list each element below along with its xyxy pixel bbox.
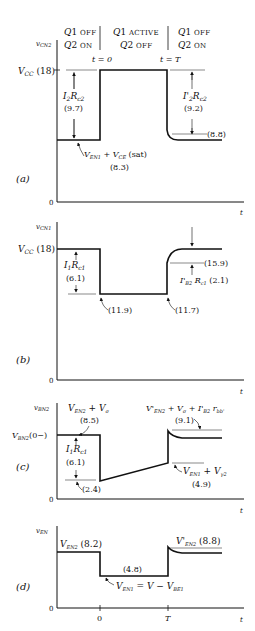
ramp-end-c: VEN1 + Vγ2 — [183, 466, 227, 478]
t0-label: t = 0 — [92, 55, 112, 64]
xlabel-a: t — [240, 209, 243, 217]
col2-line1: Q1 ACTIVE — [113, 27, 159, 37]
ylabel-ven: vEN — [36, 527, 49, 535]
vcc-a: VCC (18) — [18, 66, 55, 77]
overshoot-b: (15.9) — [204, 259, 228, 268]
tag-a: (a) — [16, 173, 30, 184]
ramp-end-val-c: (4.9) — [192, 480, 211, 489]
low-label-a: VEN1 + VCE (sat) — [84, 150, 147, 160]
ylabel-vbn2: vBN2 — [34, 404, 49, 412]
top-right-val-c: (9.1) — [175, 416, 194, 425]
xT-d: T — [165, 614, 171, 623]
zero-b: 0 — [49, 377, 53, 385]
xlabel-c: t — [240, 507, 243, 515]
col3-line2: Q2 ON — [178, 40, 206, 50]
tag-d: (d) — [16, 581, 30, 592]
right-drop-val-a: (9.2) — [184, 104, 203, 113]
panel-c: vBN2 0 t VBN2(0−) VEN2 + Vσ (8.5) I1Rc1 … — [12, 403, 244, 515]
tT-label: t = T — [160, 55, 181, 64]
drop-b: I1Rc1 — [63, 260, 85, 271]
panel-b: vCN1 0 t VCC (18) I1Rc1 (6.1) (11.9) (11… — [16, 222, 244, 396]
low2-b: (11.7) — [175, 306, 199, 315]
right-d: V'EN2 (8.8) — [176, 536, 220, 547]
waveform-diagram: Q1 OFF Q2 ON Q1 ACTIVE Q2 OFF Q1 OFF Q2 … — [0, 0, 255, 631]
tag-c: (c) — [16, 461, 30, 472]
tag-b: (b) — [16, 354, 30, 365]
drop-val-b: (6.1) — [66, 274, 85, 283]
top-left-val-c: (8.5) — [80, 416, 99, 425]
zero-d: 0 — [49, 605, 53, 613]
col1-line2: Q2 ON — [64, 40, 92, 50]
header: Q1 OFF Q2 ON Q1 ACTIVE Q2 OFF Q1 OFF Q2 … — [64, 26, 210, 64]
xlabel-d: t — [240, 616, 243, 624]
mid-val-d: (4.8) — [123, 565, 142, 574]
left-drop-val-a: (9.7) — [64, 104, 83, 113]
low1-b: (11.9) — [108, 306, 132, 315]
left-d: VEN2 (8.2) — [60, 539, 102, 550]
zero-a: 0 — [49, 199, 53, 207]
drop-c: I1Rc1 — [65, 444, 87, 455]
top-right-c: V'EN2 + Vσ + I'B2 rbb' — [146, 404, 224, 414]
low-val-c: (2.4) — [82, 485, 101, 494]
col1-line1: Q1 OFF — [64, 27, 96, 37]
top-left-c: VEN2 + Vσ — [68, 403, 109, 414]
zero-c: 0 — [49, 496, 53, 504]
col2-line2: Q2 OFF — [120, 40, 152, 50]
mid-d: VEN1 = V − VBE1 — [116, 581, 184, 592]
start-c: VBN2(0−) — [12, 431, 47, 441]
rise-b: I'B2 Rc1 (2.1) — [179, 276, 228, 286]
panel-d: vEN 0 0 T t VEN2 (8.2) (4.8) VEN1 = V − … — [16, 526, 244, 624]
panel-a: vCN2 0 t VCC (18) I2Rc2 (9.7) VEN1 + VCE… — [16, 40, 244, 217]
xlabel-b: t — [240, 388, 243, 396]
col3-line1: Q1 OFF — [178, 27, 210, 37]
drop-val-c: (6.1) — [66, 458, 85, 467]
right-level-a: (8.8) — [207, 130, 226, 139]
ylabel-vcn2: vCN2 — [36, 40, 51, 48]
ylabel-vcn1: vCN1 — [36, 223, 51, 231]
low-val-a: (8.3) — [110, 163, 129, 172]
x0-d: 0 — [97, 614, 102, 623]
vcc-b: VCC (18) — [18, 244, 55, 255]
